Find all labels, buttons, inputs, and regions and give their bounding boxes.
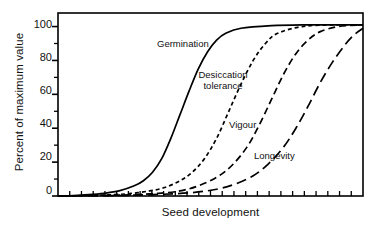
series-line-1 xyxy=(58,25,363,196)
plot-area xyxy=(0,0,378,228)
plot-frame xyxy=(58,13,363,196)
curves-layer xyxy=(58,25,363,196)
series-line-0 xyxy=(58,25,363,196)
axes-layer xyxy=(52,13,363,196)
series-line-2 xyxy=(58,25,363,196)
chart-figure: Percent of maximum value Seed developmen… xyxy=(0,0,378,228)
series-line-3 xyxy=(58,28,363,196)
